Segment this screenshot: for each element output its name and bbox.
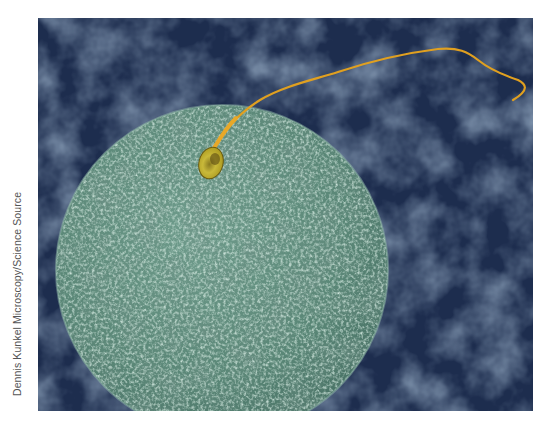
photo-credit: Dennis Kunkel Microscopy/Science Source — [11, 192, 23, 396]
egg-cell — [56, 105, 388, 411]
micrograph-image — [38, 18, 533, 411]
micrograph-illustration — [38, 18, 533, 411]
